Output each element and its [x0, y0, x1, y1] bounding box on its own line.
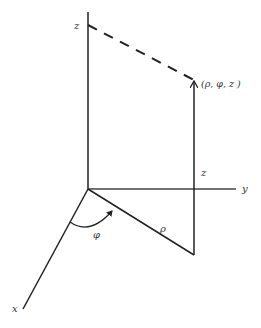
phi-label: φ [93, 229, 100, 240]
x-axis [23, 189, 88, 309]
z-axis-label: z [73, 20, 80, 31]
height-label: z [200, 167, 207, 178]
rho-line [88, 189, 194, 255]
phi-angle-arc [70, 211, 112, 227]
x-axis-label: x [12, 303, 18, 314]
cylindrical-coordinates-diagram: z y x (ρ, φ, z ) z ρ φ [0, 0, 261, 328]
y-axis-label: y [241, 183, 248, 194]
dashed-projection-line [88, 25, 194, 80]
rho-label: ρ [159, 223, 166, 234]
point-label: (ρ, φ, z ) [201, 78, 241, 89]
